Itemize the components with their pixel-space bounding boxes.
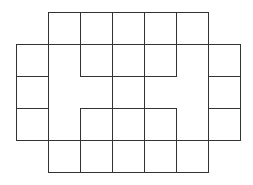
grid-diagram bbox=[0, 0, 253, 185]
diagram-background bbox=[0, 0, 253, 185]
